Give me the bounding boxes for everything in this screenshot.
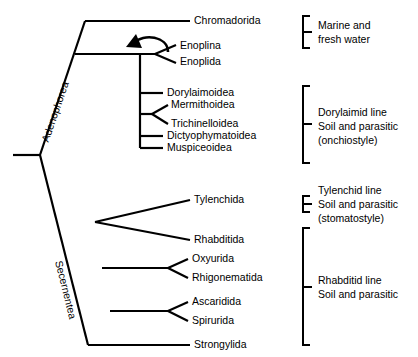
branch-rhabditida (95, 222, 190, 240)
taxon-label-rhabditida: Rhabditida (194, 233, 244, 245)
annotation-rhabditid-line1: Rhabditid line (318, 274, 382, 286)
adenophorea-text: Adenophorea (39, 80, 71, 144)
taxon-label-oxyurida: Oxyurida (192, 252, 234, 264)
annotation-dorylaimid-line1: Dorylaimid line (318, 106, 387, 118)
annotation-dorylaimid-line3: (onchiostyle) (318, 134, 378, 146)
annotation-marine-line2: fresh water (318, 33, 370, 45)
bracket-tylenchid (303, 196, 312, 212)
branch-enoplida (155, 54, 176, 63)
clade-label-adenophorea: Adenophorea (39, 80, 71, 144)
bracket-dorylaimid (303, 86, 312, 163)
branch-mermithoidea (152, 105, 168, 114)
taxon-label-rhigonematida: Rhigonematida (192, 271, 263, 283)
tree-svg: Adenophorea Secernentea Chromadorida Eno… (0, 0, 418, 357)
secernentea-text: Secernentea (53, 259, 79, 320)
branch-ascaridida (168, 302, 188, 311)
taxon-label-enoplina: Enoplina (180, 39, 221, 51)
branch-rhigonematida (168, 268, 188, 278)
taxon-label-ascaridida: Ascaridida (192, 295, 241, 307)
branch-tylenchida (95, 200, 190, 222)
taxon-label-mermithoidea: Mermithoidea (171, 98, 235, 110)
annotation-tylenchid-line3: (stomatostyle) (318, 212, 384, 224)
branch-oxyurida (168, 259, 188, 268)
taxon-label-strongylida: Strongylida (194, 338, 247, 350)
curved-arrow-icon (126, 34, 168, 52)
curved-arrow-head (126, 34, 142, 48)
annotation-rhabditid-line2: Soil and parasitic (318, 288, 398, 300)
branch-trichinelloidea (152, 114, 168, 124)
annotation-tylenchid-line1: Tylenchid line (318, 184, 382, 196)
taxon-label-dictyophymatoidea: Dictyophymatoidea (167, 129, 256, 141)
taxon-label-spirurida: Spirurida (192, 314, 234, 326)
taxon-label-dorylaimoidea: Dorylaimoidea (167, 86, 234, 98)
annotation-dorylaimid-line2: Soil and parasitic (318, 120, 398, 132)
secernentea-clade (88, 200, 190, 345)
clade-label-secernentea: Secernentea (53, 259, 79, 320)
annotation-tylenchid-line2: Soil and parasitic (318, 198, 398, 210)
branch-enoplina (155, 45, 176, 54)
annotation-marine-line1: Marine and (318, 19, 371, 31)
phylogenetic-tree-figure: Adenophorea Secernentea Chromadorida Eno… (0, 0, 418, 357)
taxon-label-tylenchida: Tylenchida (194, 193, 244, 205)
taxon-label-muspiceoidea: Muspiceoidea (167, 141, 232, 153)
taxon-label-trichinelloidea: Trichinelloidea (171, 117, 238, 129)
tree-root (13, 21, 88, 345)
taxon-label-enoplida: Enoplida (180, 55, 221, 67)
secernentea-branch (40, 155, 88, 345)
taxon-label-chromadorida: Chromadorida (194, 14, 261, 26)
bracket-marine (303, 16, 312, 48)
bracket-rhabditid (303, 228, 312, 345)
branch-spirurida (168, 311, 188, 321)
